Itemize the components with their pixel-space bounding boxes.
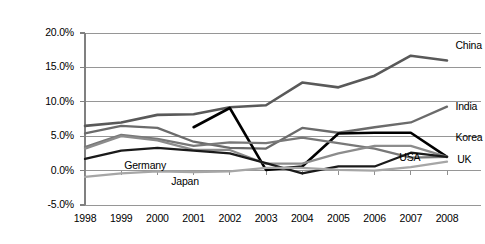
y-axis-tick-label: 15.0% bbox=[22, 61, 74, 72]
y-axis-tick-label: 0.0% bbox=[22, 165, 74, 176]
series-label-usa: USA bbox=[399, 152, 420, 163]
x-axis-tick-label: 2008 bbox=[426, 213, 468, 224]
series-label-china: China bbox=[455, 40, 481, 51]
series-line-china bbox=[85, 56, 447, 126]
series-label-japan: Japan bbox=[171, 176, 199, 187]
series-label-korea: Korea bbox=[455, 132, 482, 143]
y-axis-tick-label: 5.0% bbox=[22, 130, 74, 141]
series-label-uk: UK bbox=[457, 154, 471, 165]
y-axis-tick-label: 20.0% bbox=[22, 27, 74, 38]
series-label-india: India bbox=[455, 101, 477, 112]
y-axis-tick-label: 10.0% bbox=[22, 96, 74, 107]
line-chart: 20.0%15.0%10.0%5.0%0.0%-5.0% 19981999200… bbox=[0, 0, 485, 244]
series-label-germany: Germany bbox=[124, 160, 166, 171]
y-axis-tick-label: -5.0% bbox=[22, 199, 74, 210]
